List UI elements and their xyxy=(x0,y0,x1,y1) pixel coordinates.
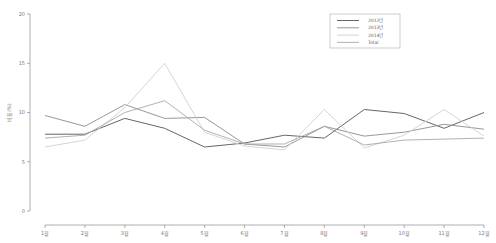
series-line-0 xyxy=(45,110,484,148)
line-chart: 05101520 1월2월3월4월5월6월7월8월9월10월11월12월 201… xyxy=(0,0,496,243)
legend: 2012년2013년2014년Total xyxy=(330,14,400,48)
y-axis: 05101520 xyxy=(19,11,30,214)
x-axis: 1월2월3월4월5월6월7월8월9월10월11월12월 xyxy=(41,225,490,237)
chart-canvas: 05101520 1월2월3월4월5월6월7월8월9월10월11월12월 201… xyxy=(0,0,496,243)
x-tick-label: 3월 xyxy=(121,230,129,237)
x-tick-label: 5월 xyxy=(201,230,209,237)
legend-label: Total xyxy=(367,40,379,45)
y-tick-label: 15 xyxy=(19,60,25,66)
series-line-2 xyxy=(45,63,484,150)
x-tick-label: 6월 xyxy=(240,230,248,237)
legend-label: 2014년 xyxy=(368,32,383,38)
x-tick-label: 10월 xyxy=(398,230,409,237)
y-tick-label: 0 xyxy=(22,208,25,214)
series-lines xyxy=(45,63,484,150)
x-tick-label: 7월 xyxy=(280,230,288,237)
x-tick-label: 1월 xyxy=(41,230,49,237)
x-tick-label: 8월 xyxy=(320,230,328,237)
legend-label: 2013년 xyxy=(368,24,383,30)
x-tick-label: 9월 xyxy=(360,230,368,237)
series-line-3 xyxy=(45,101,484,145)
y-axis-label: 비율(%) xyxy=(6,103,13,122)
legend-label: 2012년 xyxy=(368,17,383,23)
x-tick-label: 2월 xyxy=(81,230,89,237)
y-tick-label: 5 xyxy=(22,159,25,165)
x-tick-label: 4월 xyxy=(161,230,169,237)
x-tick-label: 11월 xyxy=(438,230,449,237)
legend-box xyxy=(330,14,400,48)
y-tick-label: 20 xyxy=(19,11,25,17)
x-tick-label: 12월 xyxy=(478,230,489,237)
y-tick-label: 10 xyxy=(19,109,25,115)
